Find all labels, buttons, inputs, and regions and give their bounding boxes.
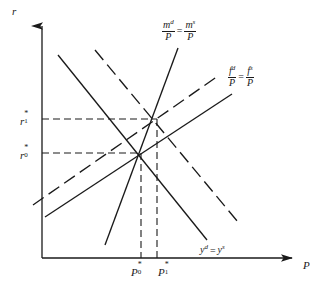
y-tick-label-r0: r*0 <box>20 146 33 162</box>
bond-demand-superscript: d <box>232 64 236 72</box>
x-tick-P1-superscripts: *1 <box>165 264 174 276</box>
goods-market-curve-dashed <box>95 50 238 222</box>
y-tick-r0-superscripts: *0 <box>24 147 33 159</box>
x-tick-P1-base: P <box>158 266 165 278</box>
money-supply-superscript: s <box>193 18 196 26</box>
x-tick-P1-index: 1 <box>165 269 169 276</box>
y-axis-label: r <box>12 6 16 17</box>
diagram-canvas <box>0 0 322 284</box>
bond-market-equation: fd P = fs P <box>228 66 254 88</box>
bond-supply-denominator: P <box>246 78 254 89</box>
money-equals-sign: = <box>175 26 185 36</box>
bond-demand-denominator: P <box>228 78 236 89</box>
curves-group <box>33 48 238 245</box>
money-demand-numerator: md <box>162 20 175 32</box>
bond-market-curve-label: fd P = fs P <box>228 66 254 88</box>
money-demand-fraction: md P <box>162 20 175 42</box>
economics-diagram-figure: r P r*1 r*0 P*0 P*1 md P = ms P fd <box>0 0 322 284</box>
bond-market-curve-dashed <box>33 76 218 205</box>
x-tick-P0-index: 0 <box>138 269 142 276</box>
bond-demand-numerator: fd <box>228 66 236 78</box>
money-supply-denominator: P <box>184 32 196 43</box>
bond-equals-sign: = <box>236 72 246 82</box>
money-supply-fraction: ms P <box>184 20 196 42</box>
x-tick-label-P0: P*0 <box>131 263 147 279</box>
money-market-curve-label: md P = ms P <box>162 20 196 42</box>
goods-equals-sign: = <box>208 246 218 256</box>
goods-supply-superscript: s <box>222 243 225 251</box>
goods-market-curve-label: yd=ys <box>200 240 225 256</box>
money-demand-superscript: d <box>170 18 174 26</box>
money-supply-symbol: m <box>185 19 192 30</box>
money-supply-numerator: ms <box>184 20 196 32</box>
bond-supply-fraction: fs P <box>246 66 254 88</box>
y-tick-r1-superscripts: *1 <box>24 113 33 125</box>
y-tick-r0-index: 0 <box>24 152 28 159</box>
bond-supply-superscript: s <box>250 64 253 72</box>
x-tick-P0-superscripts: *0 <box>138 264 147 276</box>
x-axis-label: P <box>303 260 310 271</box>
money-market-equation: md P = ms P <box>162 20 196 42</box>
goods-market-equation: yd=ys <box>200 245 225 256</box>
bond-demand-fraction: fd P <box>228 66 236 88</box>
x-tick-P0-base: P <box>131 266 138 278</box>
money-demand-denominator: P <box>162 32 175 43</box>
bond-supply-numerator: fs <box>246 66 254 78</box>
y-tick-label-r1: r*1 <box>20 112 33 128</box>
y-tick-r1-index: 1 <box>24 118 28 125</box>
guide-lines-group <box>42 119 157 258</box>
goods-market-curve-solid <box>58 55 207 240</box>
x-tick-label-P1: P*1 <box>158 263 174 279</box>
axis-group <box>42 26 292 258</box>
